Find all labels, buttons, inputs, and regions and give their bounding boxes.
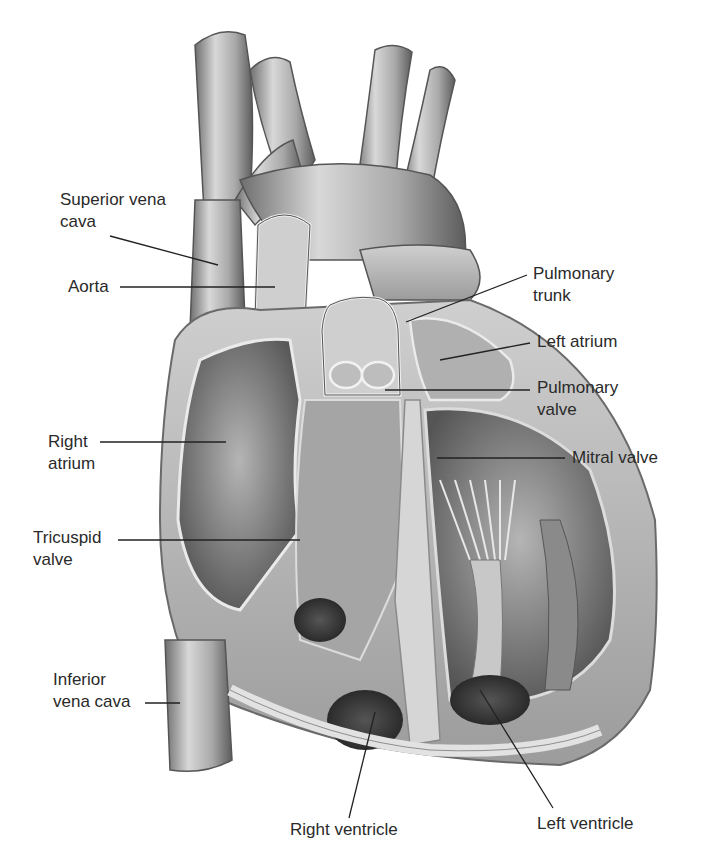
pulmonary-trunk-section: [322, 297, 400, 395]
label-left-atrium: Left atrium: [537, 331, 617, 353]
label-line: Pulmonary: [537, 377, 618, 399]
label-line: Superior vena: [60, 189, 166, 211]
label-line: atrium: [48, 453, 95, 475]
label-pulmonary-trunk: Pulmonary trunk: [533, 263, 614, 307]
label-right-ventricle: Right ventricle: [290, 819, 398, 841]
label-line: Right: [48, 431, 95, 453]
label-line: Tricuspid: [33, 527, 101, 549]
trabeculae-cluster: [294, 598, 346, 642]
label-aorta: Aorta: [68, 276, 109, 298]
label-inferior-vena-cava: Inferior vena cava: [53, 669, 131, 713]
label-line: Right ventricle: [290, 819, 398, 841]
label-line: Inferior: [53, 669, 131, 691]
label-right-atrium: Right atrium: [48, 431, 95, 475]
label-line: trunk: [533, 285, 614, 307]
label-line: valve: [537, 399, 618, 421]
label-line: valve: [33, 549, 101, 571]
label-line: vena cava: [53, 691, 131, 713]
label-line: cava: [60, 211, 166, 233]
label-line: Mitral valve: [572, 447, 658, 469]
label-pulmonary-valve: Pulmonary valve: [537, 377, 618, 421]
left-ventricle-trabeculae: [450, 675, 530, 725]
label-superior-vena-cava: Superior vena cava: [60, 189, 166, 233]
label-line: Left atrium: [537, 331, 617, 353]
label-line: Left ventricle: [537, 813, 633, 835]
label-line: Pulmonary: [533, 263, 614, 285]
label-mitral-valve: Mitral valve: [572, 447, 658, 469]
label-left-ventricle: Left ventricle: [537, 813, 633, 835]
great-vessels: [190, 32, 480, 330]
label-line: Aorta: [68, 276, 109, 298]
label-tricuspid-valve: Tricuspid valve: [33, 527, 101, 571]
